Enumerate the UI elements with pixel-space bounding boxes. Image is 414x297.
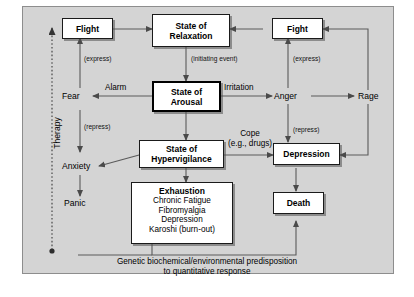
node-hypervigilance-line1: State of (166, 144, 197, 154)
node-exhaustion[interactable]: Exhaustion Chronic Fatigue Fibromyalgia … (131, 182, 233, 244)
edge-label-irritation: Irritation (224, 83, 254, 93)
node-state-of-arousal[interactable]: State of Arousal (152, 81, 221, 112)
node-fear: Fear (62, 91, 80, 101)
node-fear-label: Fear (62, 91, 80, 101)
node-exhaustion-item-0: Chronic Fatigue (153, 196, 211, 206)
edge-rage-to-depression (340, 104, 368, 155)
node-exhaustion-item-3: Karoshi (burn-out) (149, 225, 215, 235)
edge-label-express-right-text: (express) (293, 55, 320, 62)
node-anger-label: Anger (274, 91, 297, 101)
node-hypervigilance-line2: Hypervigilance (151, 154, 211, 164)
node-panic-label: Panic (64, 198, 86, 208)
edge-label-express-left: (express) (84, 55, 111, 63)
node-death-label: Death (287, 198, 311, 208)
edge-label-alarm-text: Alarm (105, 83, 126, 92)
node-state-of-hypervigilance[interactable]: State of Hypervigilance (139, 140, 224, 168)
edge-label-express-right: (express) (293, 55, 320, 63)
diagram-caption: Genetic biochemical/environmental predis… (62, 257, 352, 277)
node-exhaustion-header: Exhaustion (159, 186, 205, 196)
diagram-caption-line2: to quantitative response (62, 267, 352, 277)
therapy-axis-label: Therapy (52, 98, 62, 168)
node-anxiety: Anxiety (62, 161, 90, 171)
diagram-canvas: Therapy Flight Fight State of Relaxation… (0, 0, 414, 297)
node-state-of-relaxation[interactable]: State of Relaxation (152, 14, 230, 47)
node-panic: Panic (64, 198, 86, 208)
node-depression-label: Depression (283, 149, 329, 159)
node-relaxation-line2: Relaxation (170, 31, 213, 41)
node-exhaustion-item-2: Depression (161, 215, 202, 225)
diagram-caption-line1: Genetic biochemical/environmental predis… (62, 257, 352, 267)
node-fight-label: Fight (287, 24, 308, 34)
therapy-axis-dot (49, 248, 54, 253)
edge-label-repress-left: (repress) (84, 123, 110, 131)
node-rage-label: Rage (358, 91, 379, 101)
node-arousal-line1: State of (171, 87, 202, 97)
edge-label-cope-line2: (e.g., drugs) (222, 139, 278, 149)
node-rage: Rage (358, 91, 379, 101)
node-death[interactable]: Death (273, 192, 324, 214)
edge-label-irritation-text: Irritation (224, 83, 254, 92)
edge-label-alarm: Alarm (105, 83, 126, 93)
node-flight-label: Flight (76, 24, 99, 34)
edge-label-cope: Cope (e.g., drugs) (222, 129, 278, 148)
edge-rage-to-fight (323, 29, 368, 90)
node-flight[interactable]: Flight (62, 18, 113, 39)
edge-label-initiating-event: (initiating event) (191, 55, 238, 63)
edge-label-cope-line1: Cope (222, 129, 278, 139)
edge-label-express-left-text: (express) (84, 55, 111, 62)
edge-label-initiating-event-text: (initiating event) (191, 55, 238, 62)
node-depression[interactable]: Depression (273, 143, 340, 165)
edge-label-repress-right-text: (repress) (293, 126, 319, 133)
node-anxiety-label: Anxiety (62, 161, 90, 171)
node-anger: Anger (274, 91, 297, 101)
node-exhaustion-item-1: Fibromyalgia (159, 206, 206, 216)
node-fight[interactable]: Fight (272, 18, 323, 39)
edge-label-repress-right: (repress) (293, 126, 319, 134)
node-relaxation-line1: State of (175, 21, 206, 31)
node-arousal-line2: Arousal (171, 97, 203, 107)
edge-label-repress-left-text: (repress) (84, 123, 110, 130)
